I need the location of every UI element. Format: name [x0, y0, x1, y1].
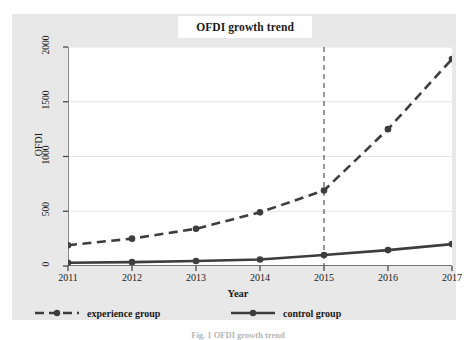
legend-item-control-group[interactable]: control group: [230, 304, 341, 322]
plot-area: [68, 47, 452, 266]
legend-label-control-group: control group: [283, 308, 341, 319]
data-point-control-group-2014: [257, 256, 264, 263]
y-tick-label-1000: 1000: [41, 138, 51, 172]
series-line-experience-group: [68, 59, 452, 245]
data-point-experience-group-2012: [129, 235, 136, 242]
legend-label-experience-group: experience group: [87, 308, 160, 319]
chart-title-box: OFDI growth trend: [178, 16, 312, 38]
plot-svg: [68, 47, 452, 266]
x-tick-label-2011: 2011: [48, 272, 88, 283]
x-tick-label-2017: 2017: [432, 272, 472, 283]
y-tick-label-2000: 2000: [41, 28, 51, 62]
chart-title: OFDI growth trend: [196, 21, 294, 33]
x-tick-label-2016: 2016: [368, 272, 408, 283]
x-tick-label-2015: 2015: [304, 272, 344, 283]
data-point-experience-group-2016: [385, 126, 392, 133]
data-point-experience-group-2015: [321, 187, 328, 194]
chart-legend: experience group control group: [12, 304, 456, 322]
legend-swatch-solid-icon: [230, 307, 276, 319]
data-point-experience-group-2013: [193, 225, 200, 232]
data-point-control-group-2015: [321, 252, 328, 259]
y-tick-label-500: 500: [41, 192, 51, 226]
x-tick-label-2013: 2013: [176, 272, 216, 283]
x-axis-title: Year: [0, 288, 476, 299]
data-point-experience-group-2014: [257, 209, 264, 216]
data-point-control-group-2013: [193, 258, 200, 265]
data-point-control-group-2017: [449, 241, 452, 248]
x-tick-label-2014: 2014: [240, 272, 280, 283]
x-tick-label-2012: 2012: [112, 272, 152, 283]
figure-caption: Fig. 1 OFDI growth trend: [0, 330, 476, 340]
y-tick-label-1500: 1500: [41, 83, 51, 117]
data-point-control-group-2016: [385, 247, 392, 254]
legend-swatch-dashed-icon: [34, 307, 80, 319]
legend-item-experience-group[interactable]: experience group: [34, 304, 160, 322]
data-point-control-group-2012: [129, 259, 136, 266]
